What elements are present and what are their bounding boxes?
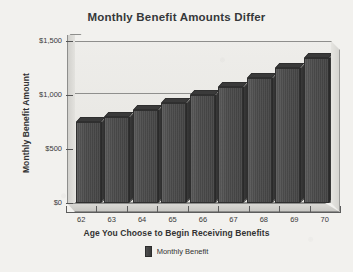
x-tick-66 [188,206,189,213]
bar-age-65 [161,103,186,203]
x-tick-64 [127,206,128,213]
bar-age-70 [304,58,329,203]
y-tick-label-1500: $1,500 [22,36,62,45]
chart-legend: Monthly Benefit [0,246,353,257]
x-tick-label-63: 63 [97,215,127,224]
plot-left-wall [67,35,75,203]
x-tick-label-62: 62 [66,215,96,224]
bar-series-monthly-benefit [75,41,331,203]
x-tick-label-70: 70 [310,215,340,224]
x-tick-70 [310,206,311,213]
y-tick-1000 [66,95,73,96]
legend-label-monthly-benefit: Monthly Benefit [157,247,209,256]
x-tick-label-64: 64 [127,215,157,224]
x-axis-title: Age You Choose to Begin Receiving Benefi… [0,228,353,238]
y-tick-1500 [66,41,73,42]
x-tick-label-67: 67 [218,215,248,224]
bar-age-63 [104,117,129,203]
y-axis-title: Monthly Benefit Amount [21,48,31,198]
x-tick-67 [218,206,219,213]
x-tick-label-65: 65 [158,215,188,224]
x-tick-label-68: 68 [249,215,279,224]
x-tick-69 [279,206,280,213]
x-tick-68 [249,206,250,213]
y-tick-label-1000: $1,000 [22,90,62,99]
x-tick-62 [66,206,67,213]
x-tick-65 [157,206,158,213]
legend-swatch-monthly-benefit [145,246,152,257]
bar-age-64 [133,110,158,203]
x-axis-line [66,212,340,213]
x-tick-label-69: 69 [279,215,309,224]
chart-container: Monthly Benefit Amounts Differ Monthly B… [0,0,353,272]
bar-age-66 [190,95,215,203]
bar-age-67 [218,87,243,203]
bar-age-68 [247,78,272,203]
x-tick-label-66: 66 [188,215,218,224]
x-tick-end [340,206,341,213]
bar-age-62 [76,122,101,203]
y-tick-500 [66,149,73,150]
x-tick-63 [96,206,97,213]
plot-right-wall [331,41,340,212]
y-tick-label-0: $0 [22,198,62,207]
bar-age-69 [275,68,300,203]
y-tick-0 [66,203,73,204]
plot-floor [67,203,340,212]
y-tick-label-500: $500 [22,144,62,153]
